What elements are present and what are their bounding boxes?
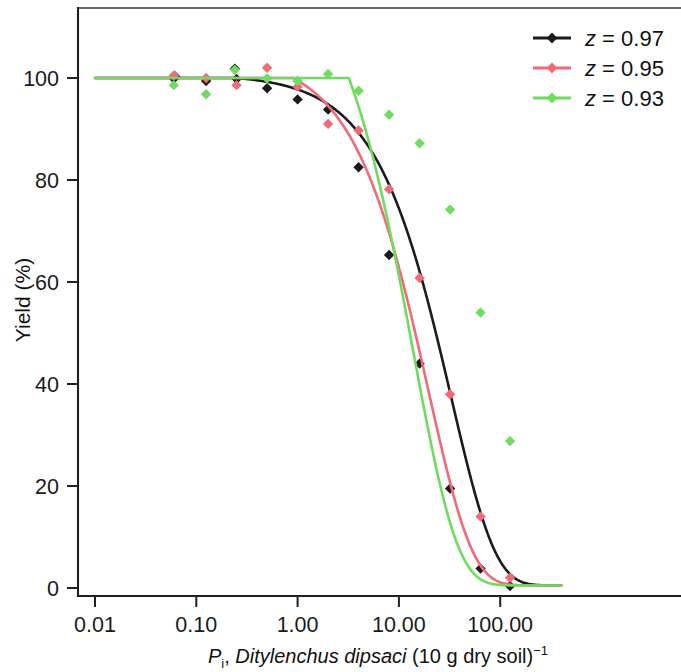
y-tick-label: 100 [23,67,59,91]
x-tick-label: 1.00 [277,613,319,637]
figure-container: 0.010.101.0010.00100.00 020406080100 Yie… [0,0,681,672]
series-0 [95,64,561,592]
legend-label: z = 0.97 [584,26,664,51]
legend-item-0[interactable]: z = 0.97 [533,26,664,51]
data-point-marker [475,307,485,317]
data-point-marker [262,83,272,93]
data-point-marker [384,110,394,120]
data-point-marker [505,436,515,446]
legend-marker-swatch [547,33,558,44]
y-axis-label: Yield (%) [11,258,34,342]
legend-marker-swatch [547,63,558,74]
yield-response-chart: 0.010.101.0010.00100.00 020406080100 Yie… [0,0,681,672]
series-curve [95,78,561,585]
y-axis-ticks [67,78,78,588]
series-curve [95,78,561,585]
series-2 [95,65,561,586]
x-tick-label: 100.00 [467,613,533,637]
y-tick-label: 20 [35,475,59,499]
data-point-marker [262,63,272,73]
data-point-marker [445,389,455,399]
data-point-marker [323,119,333,129]
data-point-marker [505,573,515,583]
y-tick-label: 40 [35,373,59,397]
series-curve [95,78,561,585]
series-1 [95,63,561,586]
legend: z = 0.97z = 0.95z = 0.93 [533,26,664,111]
legend-item-2[interactable]: z = 0.93 [533,86,664,111]
legend-item-1[interactable]: z = 0.95 [533,56,664,81]
x-tick-label: 0.01 [74,613,116,637]
y-tick-label: 60 [35,271,59,295]
series-group [95,63,561,592]
x-axis-ticks [95,596,500,607]
data-point-marker [231,80,241,90]
data-point-marker [201,89,211,99]
x-tick-label: 0.10 [175,613,217,637]
x-axis-tick-labels: 0.010.101.0010.00100.00 [74,613,533,637]
data-point-marker [169,80,179,90]
x-tick-label: 10.00 [372,613,426,637]
data-point-marker [445,204,455,214]
data-point-marker [230,65,240,75]
legend-marker-swatch [547,93,558,104]
data-point-marker [292,94,302,104]
x-axis-label: Pi, Ditylenchus dipsaci (10 g dry soil)−… [208,643,548,671]
data-point-marker [384,250,394,260]
y-tick-label: 80 [35,169,59,193]
data-point-marker [414,138,424,148]
legend-label: z = 0.95 [584,56,664,81]
data-point-marker [353,162,363,172]
y-tick-label: 0 [47,577,59,601]
legend-label: z = 0.93 [584,86,664,111]
svg-text:Pi, Ditylenchus dipsaci (10 g: Pi, Ditylenchus dipsaci (10 g dry soil)−… [208,643,548,671]
